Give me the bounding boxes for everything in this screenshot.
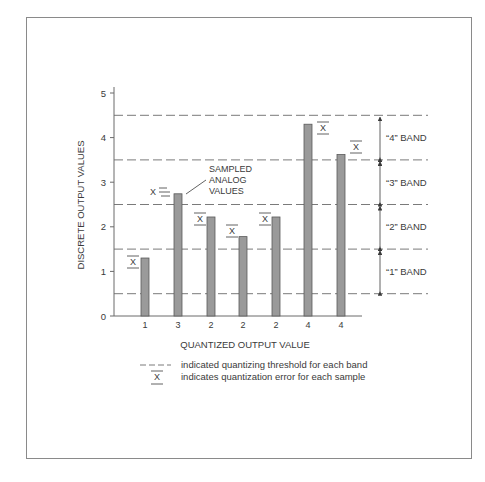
band-indicator: “2” BAND bbox=[380, 207, 427, 248]
x-tick-label: 2 bbox=[273, 320, 278, 330]
x-tick-label: 2 bbox=[208, 320, 213, 330]
band-indicator: “4” BAND bbox=[380, 117, 427, 158]
threshold-lines bbox=[114, 115, 428, 293]
band-label: “4” BAND bbox=[386, 132, 427, 143]
x-axis-label: QUANTIZED OUTPUT VALUE bbox=[180, 339, 310, 350]
quantization-error-marker: X bbox=[317, 122, 329, 134]
band-indicator: “1” BAND bbox=[380, 251, 427, 292]
quantization-error-marker: X bbox=[127, 256, 139, 268]
bar bbox=[304, 124, 312, 316]
y-tick-label: 1 bbox=[101, 266, 106, 277]
x-tick-label: 4 bbox=[338, 320, 343, 330]
legend: indicated quantizing threshold for each … bbox=[140, 359, 367, 384]
quantization-chart: 012345 1322244 XXXXXXX “1” BAND“2” BAND“… bbox=[0, 0, 485, 482]
band-label: “2” BAND bbox=[386, 221, 427, 232]
x-tick-label: 1 bbox=[142, 320, 147, 330]
bars: 1322244 bbox=[141, 124, 345, 330]
x-tick-label: 3 bbox=[175, 320, 180, 330]
sampled-values-label: ANALOG bbox=[209, 175, 247, 185]
x-tick-label: 2 bbox=[240, 320, 245, 330]
sampled-annotation: SAMPLEDANALOGVALUES bbox=[186, 164, 253, 196]
band-indicator: “3” BAND bbox=[380, 162, 427, 203]
svg-text:X: X bbox=[154, 372, 160, 382]
y-tick-label: 5 bbox=[101, 88, 106, 99]
quantization-error-marker: X bbox=[350, 141, 362, 153]
svg-text:X: X bbox=[197, 214, 203, 224]
band-label: “1” BAND bbox=[386, 266, 427, 277]
y-tick-label: 3 bbox=[101, 177, 106, 188]
quantization-error-marker: X bbox=[150, 187, 170, 197]
svg-text:X: X bbox=[150, 187, 156, 197]
legend-item-error: Xindicates quantization error for each s… bbox=[151, 371, 365, 384]
svg-text:X: X bbox=[320, 123, 326, 133]
legend-item-threshold: indicated quantizing threshold for each … bbox=[140, 359, 367, 370]
y-axis-label: DISCRETE OUTPUT VALUES bbox=[75, 141, 86, 270]
svg-text:indicated quantizing threshold: indicated quantizing threshold for each … bbox=[181, 359, 367, 370]
quantization-error-marker: X bbox=[194, 213, 206, 225]
svg-text:X: X bbox=[130, 257, 136, 267]
sampled-values-label: SAMPLED bbox=[209, 164, 253, 174]
bar bbox=[141, 258, 149, 316]
y-tick-label: 2 bbox=[101, 221, 106, 232]
y-tick-label: 4 bbox=[101, 132, 106, 143]
bar bbox=[174, 194, 182, 316]
svg-text:X: X bbox=[262, 214, 268, 224]
bar bbox=[337, 155, 345, 316]
y-tick-label: 0 bbox=[101, 311, 106, 322]
quantization-error-marker: X bbox=[259, 213, 271, 225]
band-label: “3” BAND bbox=[386, 177, 427, 188]
quantization-error-marker: X bbox=[226, 225, 238, 237]
sampled-values-label: VALUES bbox=[209, 186, 244, 196]
leader-line bbox=[186, 180, 206, 194]
bar bbox=[239, 237, 247, 316]
bar bbox=[207, 217, 215, 316]
x-tick-label: 4 bbox=[305, 320, 310, 330]
svg-text:X: X bbox=[229, 226, 235, 236]
bar bbox=[272, 217, 280, 316]
svg-text:X: X bbox=[353, 142, 359, 152]
svg-text:indicates quantization error f: indicates quantization error for each sa… bbox=[181, 371, 365, 382]
